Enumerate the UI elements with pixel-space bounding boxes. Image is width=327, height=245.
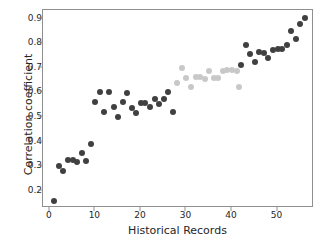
x-tick-label: 10 <box>89 210 100 220</box>
y-tick-mark <box>38 17 42 18</box>
x-tick-mark <box>139 207 140 211</box>
data-point <box>188 84 194 90</box>
x-axis-label: Historical Records <box>42 224 313 237</box>
scatter-plot-figure: Historical Records Correlation coefficie… <box>0 0 327 245</box>
data-point <box>174 80 180 86</box>
data-point <box>252 59 258 65</box>
plot-area <box>42 9 313 207</box>
data-point <box>215 75 221 81</box>
data-point <box>202 76 208 82</box>
data-point <box>234 68 240 74</box>
y-tick-mark <box>38 165 42 166</box>
data-point <box>236 84 242 90</box>
x-tick-mark <box>94 207 95 211</box>
x-tick-label: 20 <box>134 210 145 220</box>
data-point <box>288 28 294 34</box>
data-point <box>74 159 80 165</box>
data-point <box>111 104 117 110</box>
data-point <box>147 104 153 110</box>
x-tick-mark <box>276 207 277 211</box>
data-point <box>92 99 98 105</box>
data-point <box>83 158 89 164</box>
data-point <box>88 141 94 147</box>
data-point <box>133 110 139 116</box>
data-point <box>165 89 171 95</box>
data-point <box>170 109 176 115</box>
x-tick-mark <box>185 207 186 211</box>
x-tick-label: 40 <box>225 210 236 220</box>
data-point <box>156 101 162 107</box>
data-point <box>60 168 66 174</box>
y-tick-mark <box>38 189 42 190</box>
data-point <box>106 89 112 95</box>
data-point <box>51 198 57 204</box>
data-point <box>115 114 121 120</box>
data-point <box>124 90 130 96</box>
x-tick-label: 30 <box>180 210 191 220</box>
data-point <box>284 42 290 48</box>
data-point <box>238 62 244 68</box>
data-point <box>243 42 249 48</box>
data-point <box>206 68 212 74</box>
x-tick-label: 0 <box>46 210 52 220</box>
x-tick-mark <box>231 207 232 211</box>
data-point <box>302 15 308 21</box>
x-tick-label: 50 <box>271 210 282 220</box>
data-point <box>79 150 85 156</box>
data-point <box>293 36 299 42</box>
data-point <box>179 65 185 71</box>
y-tick-mark <box>38 91 42 92</box>
x-tick-mark <box>48 207 49 211</box>
data-point <box>183 75 189 81</box>
data-point <box>161 96 167 102</box>
y-tick-mark <box>38 115 42 116</box>
data-point <box>297 21 303 27</box>
data-point <box>101 109 107 115</box>
data-point <box>247 51 253 57</box>
data-point <box>120 99 126 105</box>
y-tick-mark <box>38 140 42 141</box>
y-tick-mark <box>38 66 42 67</box>
data-point <box>265 55 271 61</box>
y-tick-mark <box>38 42 42 43</box>
data-point <box>97 89 103 95</box>
